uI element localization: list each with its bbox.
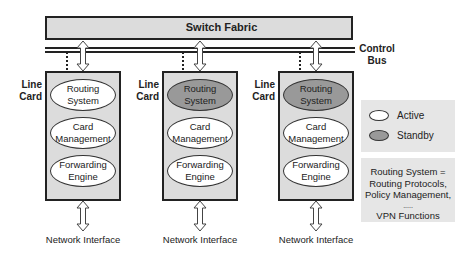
line-card-3-label: LineCard — [249, 79, 275, 103]
standby-swatch-icon — [369, 130, 389, 141]
card1-interface-arrow-icon — [77, 201, 89, 231]
active-swatch-icon — [369, 110, 389, 121]
line-card-1-label: LineCard — [16, 79, 42, 103]
legend-item-active: Active — [369, 110, 424, 121]
forwarding-engine-module: ForwardingEngine — [167, 155, 233, 187]
line-card-1: RoutingSystem CardManagement ForwardingE… — [45, 71, 121, 201]
legend: Active Standby — [361, 100, 455, 152]
network-interface-label-3: Network Interface — [266, 234, 366, 245]
line-card-2-label: LineCard — [133, 79, 159, 103]
network-interface-label-1: Network Interface — [33, 234, 133, 245]
card-management-module: CardManagement — [50, 117, 116, 149]
routing-system-module: RoutingSystem — [167, 79, 233, 111]
fabric-card1-arrow-icon — [77, 41, 89, 71]
fabric-card2-arrow-icon — [194, 41, 206, 71]
card3-interface-arrow-icon — [310, 201, 322, 231]
card2-interface-arrow-icon — [194, 201, 206, 231]
routing-system-note: Routing System = Routing Protocols, Poli… — [361, 158, 455, 222]
line-card-2: RoutingSystem CardManagement ForwardingE… — [162, 71, 238, 201]
routing-system-module: RoutingSystem — [283, 79, 349, 111]
routing-system-module: RoutingSystem — [50, 79, 116, 111]
network-interface-label-2: Network Interface — [150, 234, 250, 245]
card-management-module: CardManagement — [283, 117, 349, 149]
forwarding-engine-module: ForwardingEngine — [50, 155, 116, 187]
fabric-card3-arrow-icon — [310, 41, 322, 71]
legend-item-standby: Standby — [369, 130, 434, 141]
card-management-module: CardManagement — [167, 117, 233, 149]
forwarding-engine-module: ForwardingEngine — [283, 155, 349, 187]
line-card-3: RoutingSystem CardManagement ForwardingE… — [278, 71, 354, 201]
